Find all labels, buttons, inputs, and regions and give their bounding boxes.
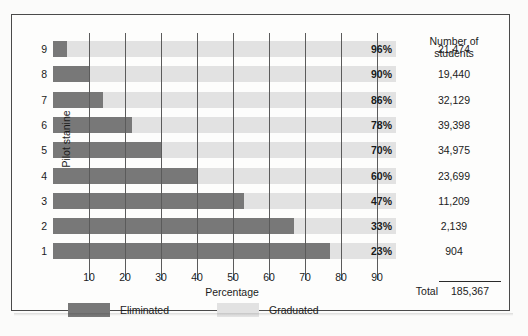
graduated-percentage-label: 33% [356, 218, 392, 234]
graduated-percentage-label: 96% [356, 41, 392, 57]
x-axis-tick-label: 90 [362, 271, 392, 283]
y-axis-tick-label: 8 [29, 66, 47, 82]
x-axis-tick-label: 50 [218, 271, 248, 283]
x-axis-tick-label: 30 [146, 271, 176, 283]
graduated-percentage-label: 23% [356, 243, 392, 259]
bar-segment-eliminated [53, 218, 294, 234]
bar-row [53, 92, 396, 108]
bar-segment-graduated [53, 92, 396, 108]
student-count-value: 23,699 [411, 168, 497, 184]
graduated-percentage-label: 60% [356, 168, 392, 184]
student-count-value: 2,139 [411, 218, 497, 234]
bar-row [53, 243, 396, 259]
student-count-value: 19,440 [411, 66, 497, 82]
bar-segment-graduated [53, 66, 396, 82]
bar-segment-eliminated [53, 168, 197, 184]
total-value: 185,367 [439, 285, 501, 297]
student-count-value: 11,209 [411, 193, 497, 209]
total-rule [439, 281, 501, 282]
y-axis-tick-label: 7 [29, 92, 47, 108]
bar-segment-eliminated [53, 193, 244, 209]
x-axis-tick-label: 20 [110, 271, 140, 283]
chart-legend: Eliminated Graduated [12, 302, 509, 322]
bar-segment-eliminated [53, 41, 67, 57]
x-axis-title: Percentage [172, 286, 292, 298]
bar-row [53, 66, 396, 82]
bar-row [53, 142, 396, 158]
y-axis-tick-label: 6 [29, 117, 47, 133]
y-axis-tick-label: 9 [29, 41, 47, 57]
page-shadow [14, 313, 513, 316]
y-axis-tick-label: 5 [29, 142, 47, 158]
graduated-percentage-label: 70% [356, 142, 392, 158]
x-axis-tick-label: 80 [326, 271, 356, 283]
student-count-value: 32,129 [411, 92, 497, 108]
chart-plot-area [53, 39, 396, 267]
y-axis-tick-label: 2 [29, 218, 47, 234]
chart-figure-frame: Pilot stanine 987654321 1020304050607080… [11, 14, 510, 311]
x-axis-tick-label: 70 [290, 271, 320, 283]
y-axis-tick-label: 3 [29, 193, 47, 209]
bar-segment-graduated [53, 41, 396, 57]
graduated-percentage-label: 47% [356, 193, 392, 209]
x-axis-tick-label: 60 [254, 271, 284, 283]
student-count-value: 21,474 [411, 41, 497, 57]
student-count-value: 39,398 [411, 117, 497, 133]
graduated-percentage-label: 86% [356, 92, 392, 108]
bar-row [53, 218, 396, 234]
x-axis-tick-label: 40 [182, 271, 212, 283]
student-count-value: 34,975 [411, 142, 497, 158]
bar-row [53, 168, 396, 184]
graduated-percentage-label: 90% [356, 66, 392, 82]
bar-row [53, 193, 396, 209]
total-label: Total [398, 285, 438, 297]
graduated-percentage-label: 78% [356, 117, 392, 133]
y-axis-tick-label: 4 [29, 168, 47, 184]
bar-segment-eliminated [53, 243, 330, 259]
x-axis-tick-label: 10 [74, 271, 104, 283]
bar-row [53, 41, 396, 57]
student-count-value: 904 [411, 243, 497, 259]
bar-row [53, 117, 396, 133]
y-axis-tick-label: 1 [29, 243, 47, 259]
y-axis-title: Pilot stanine [60, 79, 72, 199]
